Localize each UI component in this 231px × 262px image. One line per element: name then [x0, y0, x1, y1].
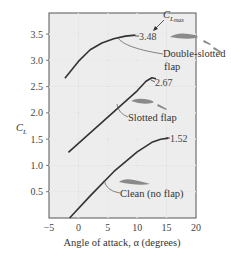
y-tick-label: 1.5: [31, 134, 44, 145]
y-axis-ticks: 0.51.01.52.02.53.03.5: [31, 29, 50, 198]
x-tick-label: 10: [132, 222, 142, 233]
label-clean: Clean (no flap): [120, 188, 184, 200]
y-axis-label: CL: [16, 122, 27, 136]
x-tick-label: 0: [76, 222, 81, 233]
y-tick-label: 0.5: [31, 186, 44, 197]
max-value-clean: 1.52: [170, 133, 188, 144]
max-value-slotted: 2.67: [155, 77, 173, 88]
x-tick-label: 5: [105, 222, 110, 233]
x-tick-label: 20: [191, 222, 201, 233]
y-tick-label: 3.5: [31, 29, 44, 40]
x-axis-label: Angle of attack, α (degrees): [63, 237, 181, 249]
label-double-slotted: Double-slotted: [163, 48, 226, 59]
x-tick-label: 15: [162, 222, 172, 233]
label-double-slotted-line2: flap: [164, 61, 180, 72]
x-tick-label: −5: [44, 222, 55, 233]
y-tick-label: 2.0: [31, 107, 44, 118]
x-axis-ticks: −505101520: [44, 222, 201, 233]
y-tick-label: 3.0: [31, 55, 44, 66]
lift-coefficient-chart: 0.51.01.52.02.53.03.5 −505101520 CL Angl…: [0, 0, 231, 262]
y-tick-label: 2.5: [31, 81, 44, 92]
label-slotted: Slotted flap: [128, 112, 177, 123]
y-tick-label: 1.0: [31, 160, 44, 171]
max-value-double-slotted: 3.48: [139, 31, 157, 42]
